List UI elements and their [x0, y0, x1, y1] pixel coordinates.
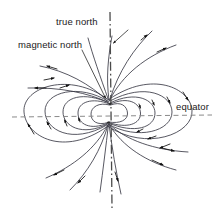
magnetic-field-diagram: true north magnetic north equator [0, 0, 222, 222]
field-arrowheads [28, 35, 188, 183]
field-line-polar-l5 [110, 125, 177, 170]
arrow-right-low-5 [160, 144, 170, 148]
leader-true-north [114, 30, 129, 43]
label-magnetic-north: magnetic north [18, 39, 82, 50]
arrow-right-3 [152, 100, 154, 105]
field-line-left-1 [91, 104, 110, 124]
field-line-polar-u4 [110, 45, 177, 101]
field-line-polar-l6 [110, 125, 189, 153]
magnetic-north-pole-point [109, 103, 112, 105]
arrow-right-5 [183, 92, 188, 100]
field-lines-polar-lower [46, 124, 188, 194]
arrow-polar-l4 [54, 170, 64, 175]
label-equator: equator [176, 101, 209, 112]
magnetic-south-pole-point [107, 121, 110, 123]
arrow-left-5 [28, 124, 34, 134]
field-lines-left [24, 84, 110, 142]
arrow-right-low-3 [137, 129, 143, 132]
field-line-right-1 [109, 104, 128, 123]
field-line-left-2 [78, 101, 110, 127]
arrow-left-up-4 [60, 85, 69, 88]
arrow-left-up-5 [44, 78, 54, 80]
field-line-polar-l1 [100, 124, 109, 192]
field-line-polar-l4 [46, 126, 108, 179]
label-true-north: true north [56, 16, 98, 27]
equator-line [12, 115, 212, 117]
